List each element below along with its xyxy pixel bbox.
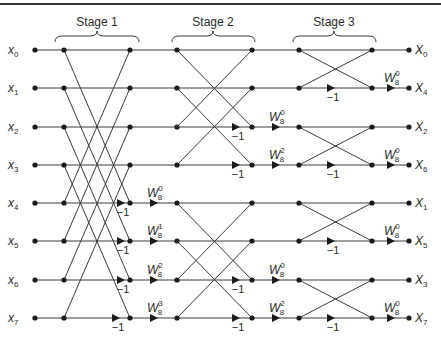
twiddle-N: 8 (158, 193, 163, 202)
output-node (406, 85, 411, 90)
stage3-left-node (296, 162, 301, 167)
negation-label: −1 (112, 321, 125, 333)
output-node (406, 124, 411, 129)
twiddle-factor-label: W28 (269, 299, 285, 317)
negation-label: −1 (327, 321, 340, 333)
input-node (32, 277, 37, 282)
stage1-left-node (61, 315, 66, 320)
negation-label: −1 (117, 206, 130, 218)
twiddle-N: 8 (158, 270, 163, 279)
stage3-right-node (369, 200, 374, 205)
stage1-right-node (127, 47, 132, 52)
stage1-left-node (61, 47, 66, 52)
twiddle-exponent: 0 (395, 299, 400, 308)
stage3-right-node (369, 238, 374, 243)
twiddle-N: 8 (280, 308, 285, 317)
twiddle-exponent: 1 (158, 222, 163, 231)
twiddle-N: 8 (158, 231, 163, 240)
input-node (32, 200, 37, 205)
input-node (32, 315, 37, 320)
stage2-right-node (249, 124, 254, 129)
signal-wires (35, 50, 409, 318)
stage2-left-node (174, 162, 179, 167)
output-label-X3: X3 (414, 273, 428, 289)
twiddle-N: 8 (395, 308, 400, 317)
stage1-right-node (127, 238, 132, 243)
stage2-left-node (174, 277, 179, 282)
stage-2-brace (172, 31, 255, 42)
stage1-left-node (61, 124, 66, 129)
input-label-x3: x3 (7, 158, 19, 174)
output-label-X5: X5 (414, 234, 428, 250)
stage1-left-node (61, 162, 66, 167)
stage1-right-node (127, 85, 132, 90)
twiddle-factor-label: W28 (269, 146, 285, 164)
negation-label: −1 (232, 321, 245, 333)
stage3-right-node (369, 124, 374, 129)
stage3-left-node (296, 85, 301, 90)
twiddle-factor-label: W18 (147, 222, 163, 240)
negation-label: −1 (232, 130, 245, 142)
twiddle-N: 8 (280, 117, 285, 126)
stage1-right-node (127, 315, 132, 320)
input-label-x4: x4 (7, 196, 19, 212)
stage2-left-node (174, 315, 179, 320)
stage3-right-node (369, 315, 374, 320)
input-node (32, 85, 37, 90)
twiddle-N: 8 (158, 308, 163, 317)
stage1-right-node (127, 124, 132, 129)
stage1-right-node (127, 200, 132, 205)
twiddle-factor-label: W08 (384, 299, 400, 317)
twiddle-factor-label: W38 (147, 299, 163, 317)
output-node (406, 162, 411, 167)
stage3-left-node (296, 277, 301, 282)
stage2-left-node (174, 238, 179, 243)
twiddle-N: 8 (395, 155, 400, 164)
twiddle-N: 8 (395, 231, 400, 240)
twiddle-exponent: 0 (395, 222, 400, 231)
stage3-left-node (296, 124, 301, 129)
stage-1-label: Stage 1 (76, 15, 118, 29)
stage-1-brace (55, 31, 139, 42)
stage2-right-node (249, 85, 254, 90)
twiddle-exponent: 0 (158, 184, 163, 193)
stage3-left-node (296, 315, 301, 320)
input-label-x5: x5 (7, 234, 19, 250)
output-label-X1: X1 (414, 196, 428, 212)
input-label-x6: x6 (7, 273, 19, 289)
output-node (406, 47, 411, 52)
stage-2-label: Stage 2 (192, 15, 234, 29)
twiddle-exponent: 2 (280, 146, 285, 155)
twiddle-exponent: 0 (280, 261, 285, 270)
twiddle-factor-label: W08 (384, 146, 400, 164)
twiddle-factor-label: W08 (384, 222, 400, 240)
twiddle-N: 8 (395, 78, 400, 87)
output-node (406, 277, 411, 282)
stage1-left-node (61, 200, 66, 205)
negation-label: −1 (327, 244, 340, 256)
twiddle-exponent: 0 (395, 69, 400, 78)
twiddle-exponent: 2 (280, 299, 285, 308)
twiddle-N: 8 (280, 155, 285, 164)
output-node (406, 315, 411, 320)
stage2-left-node (174, 124, 179, 129)
negation-label: −1 (232, 168, 245, 180)
stage1-left-node (61, 277, 66, 282)
stage2-right-node (249, 238, 254, 243)
output-label-X4: X4 (414, 81, 428, 97)
output-node (406, 200, 411, 205)
negation-label: −1 (117, 244, 130, 256)
stage1-left-node (61, 238, 66, 243)
stage-3-header: Stage 3 (293, 15, 376, 42)
twiddle-exponent: 0 (280, 108, 285, 117)
twiddle-N: 8 (280, 270, 285, 279)
stage3-right-node (369, 162, 374, 167)
stage3-left-node (296, 238, 301, 243)
stage-2-header: Stage 2 (172, 15, 255, 42)
stage-3-label: Stage 3 (313, 15, 355, 29)
input-node (32, 124, 37, 129)
twiddle-factor-label: W08 (269, 261, 285, 279)
output-label-X6: X6 (414, 158, 428, 174)
stage3-right-node (369, 85, 374, 90)
stage3-right-node (369, 277, 374, 282)
